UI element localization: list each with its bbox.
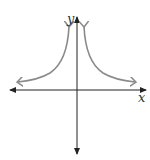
graph: y x [0,0,150,160]
y-axis-label: y [66,11,75,26]
x-axis-label: x [138,90,146,105]
right-curve-branch [84,26,135,82]
left-curve-branch [18,26,69,82]
